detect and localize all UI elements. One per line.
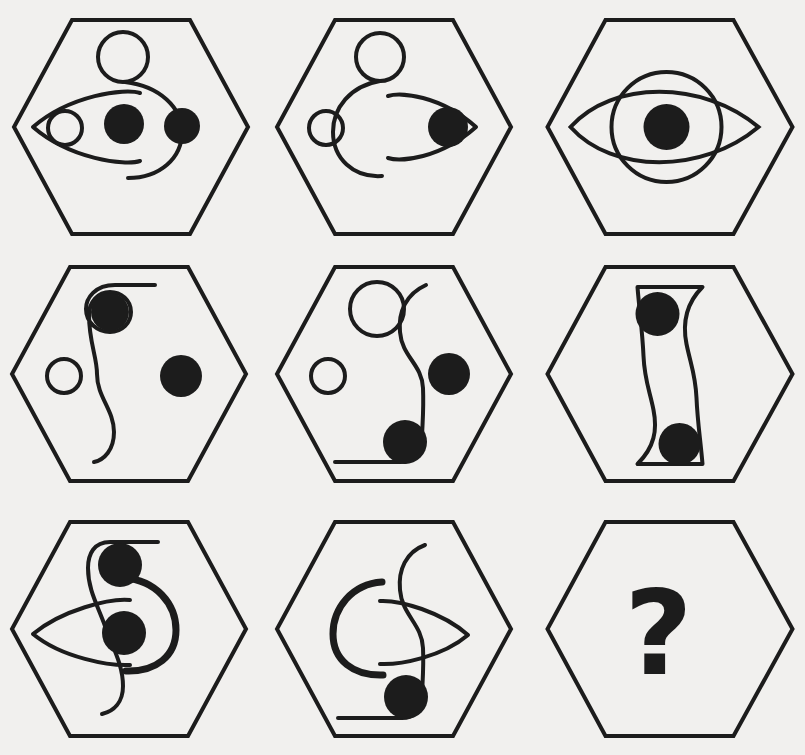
filled-dot — [160, 355, 202, 397]
matrix-cell-r3c3[interactable]: ? — [540, 500, 805, 755]
thick-c-arc — [333, 582, 383, 675]
matrix-cell-r1c3[interactable] — [540, 0, 805, 255]
matrix-cell-r3c1[interactable] — [0, 500, 270, 755]
hook-six-curve — [333, 81, 382, 176]
filled-dot — [384, 675, 428, 719]
filled-dot — [383, 420, 427, 464]
filled-dot — [102, 611, 146, 655]
small-hollow-circle — [48, 111, 82, 145]
filled-dot — [104, 104, 144, 144]
filled-dot — [428, 353, 470, 395]
filled-dot — [636, 292, 680, 336]
matrix-cell-r2c1[interactable] — [0, 252, 270, 507]
filled-dot — [428, 107, 468, 147]
small-hollow-circle — [311, 359, 345, 393]
filled-dot — [91, 293, 129, 331]
filled-dot — [98, 543, 142, 587]
matrix-cell-r3c2[interactable] — [270, 500, 540, 755]
matrix-cell-r1c1[interactable] — [0, 0, 270, 255]
matrix-cell-r2c2[interactable] — [270, 252, 540, 507]
question-mark: ? — [624, 564, 692, 702]
hollow-circle — [350, 282, 404, 336]
puzzle-matrix-grid: ? — [0, 0, 805, 755]
matrix-cell-r1c2[interactable] — [270, 0, 540, 255]
matrix-cell-r2c3[interactable] — [540, 252, 805, 507]
filled-dot — [659, 423, 701, 465]
hook-top-circle — [98, 32, 148, 82]
hook-top-circle — [356, 33, 404, 81]
filled-dot — [164, 108, 200, 144]
small-hollow-circle — [47, 359, 81, 393]
filled-dot — [644, 104, 690, 150]
small-hollow-circle — [309, 111, 343, 145]
